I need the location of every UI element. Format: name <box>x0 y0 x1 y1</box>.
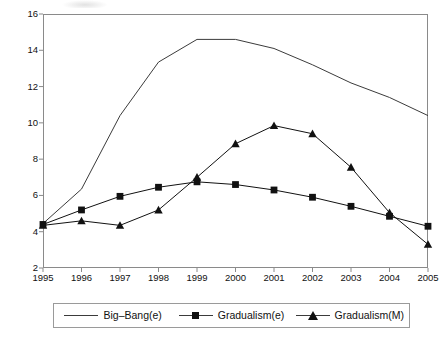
chart-drawing-surface <box>0 0 443 340</box>
square-marker-icon <box>179 310 213 322</box>
legend-label: Gradualism(e) <box>218 310 285 321</box>
x-axis-tick-label: 2001 <box>254 272 294 283</box>
x-axis-tick-label: 2003 <box>331 272 371 283</box>
triangle-marker-icon <box>296 310 330 322</box>
x-axis-tick-label: 1997 <box>100 272 140 283</box>
legend-label: Gradualism(M) <box>335 310 404 321</box>
legend-label: Big–Bang(e) <box>103 310 161 321</box>
legend-item-gradualism-e: Gradualism(e) <box>172 310 290 322</box>
legend-item-gradualism-m: Gradualism(M) <box>291 310 409 322</box>
y-axis-tick-label: 14 <box>16 45 38 55</box>
x-axis-tick-label: 1998 <box>139 272 179 283</box>
y-axis-tick-label: 8 <box>16 154 38 164</box>
x-axis-tick-label: 2004 <box>370 272 410 283</box>
x-axis-tick-label: 2002 <box>293 272 333 283</box>
x-axis-tick-label: 2000 <box>216 272 256 283</box>
y-axis-tick-label: 4 <box>16 227 38 237</box>
x-axis-tick-label: 1995 <box>23 272 63 283</box>
line-chart: 246810121416 199519961997199819992000200… <box>0 0 443 340</box>
chart-legend: Big–Bang(e) Gradualism(e) Gradualism(M) <box>53 303 410 328</box>
line-key-icon <box>64 310 98 322</box>
y-axis-tick-label: 12 <box>16 82 38 92</box>
x-axis-tick-label: 1996 <box>62 272 102 283</box>
y-axis-tick-label: 10 <box>16 118 38 128</box>
y-axis-tick-label: 6 <box>16 190 38 200</box>
x-axis-labels: 1995199619971998199920002001200220032004… <box>0 272 443 288</box>
x-axis-tick-label: 2005 <box>408 272 443 283</box>
y-axis-labels: 246810121416 <box>14 0 38 340</box>
legend-item-big-bang-e: Big–Bang(e) <box>54 310 172 322</box>
x-axis-tick-label: 1999 <box>177 272 217 283</box>
y-axis-tick-label: 16 <box>16 9 38 19</box>
